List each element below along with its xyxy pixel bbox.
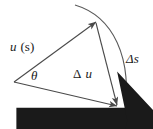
- label-delta-u: Δu: [73, 65, 92, 80]
- vector-symbol-delta-u: u: [85, 65, 92, 80]
- vector-difference-diagram: u(s) θ Δu Δs u(s + Δs): [0, 0, 153, 129]
- label-u-at-s: u(s): [10, 38, 34, 53]
- u-at-s-plus-ds-argument: (s + Δs): [34, 105, 75, 120]
- u-at-s-argument: (s): [21, 39, 35, 54]
- u-glyph: u: [10, 39, 17, 54]
- label-u-at-s-plus-ds: u(s + Δs): [23, 104, 74, 119]
- vector-symbol-u: u: [23, 104, 30, 119]
- vector-u-at-s-plus-ds-line: [14, 82, 117, 106]
- delta-glyph: Δ: [73, 66, 81, 81]
- vector-symbol-u: u: [10, 38, 17, 53]
- u-glyph: u: [23, 105, 30, 120]
- u-glyph: u: [85, 66, 92, 81]
- label-angle-theta: θ: [31, 69, 37, 82]
- label-delta-s: Δs: [126, 52, 139, 65]
